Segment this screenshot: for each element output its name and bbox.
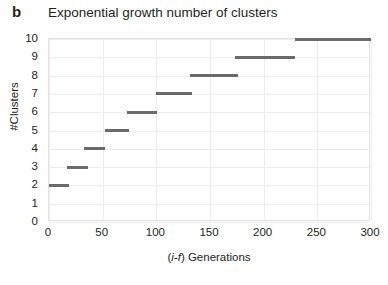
figure-panel-b: b Exponential growth number of clusters …	[0, 0, 388, 285]
step-segment	[105, 129, 130, 132]
y-axis-tick-labels: 012345678910	[0, 38, 44, 221]
step-segment	[190, 74, 238, 77]
x-tick-label: 50	[95, 225, 108, 239]
gridline-horizontal	[49, 222, 369, 223]
step-segment	[295, 38, 371, 41]
x-axis-tick-labels: 050100150200250300	[48, 225, 370, 241]
y-tick-label: 2	[32, 178, 38, 190]
y-tick-label: 3	[32, 160, 38, 172]
y-tick-label: 9	[32, 50, 38, 62]
x-axis-title: (i-f) Generations	[48, 250, 370, 264]
step-series	[49, 39, 369, 220]
x-tick-label: 300	[360, 225, 379, 239]
y-tick-label: 6	[32, 105, 38, 117]
x-tick-label: 250	[307, 225, 326, 239]
step-segment	[127, 111, 157, 114]
step-segment	[156, 92, 191, 95]
plot-area	[48, 38, 370, 221]
step-segment	[84, 147, 104, 150]
x-axis-title-italic: i-f	[171, 251, 181, 263]
gridline-vertical	[371, 39, 372, 220]
chart-title: Exponential growth number of clusters	[48, 3, 378, 22]
y-tick-label: 4	[32, 142, 38, 154]
y-tick-label: 1	[32, 197, 38, 209]
y-tick-label: 5	[32, 124, 38, 136]
panel-label: b	[12, 3, 21, 21]
step-segment	[67, 166, 87, 169]
y-tick-label: 10	[25, 32, 38, 44]
y-tick-label: 0	[32, 215, 38, 227]
x-tick-label: 200	[253, 225, 272, 239]
x-tick-label: 100	[146, 225, 165, 239]
y-tick-label: 8	[32, 69, 38, 81]
x-axis-title-plain: ) Generations	[181, 251, 251, 263]
x-tick-label: 0	[45, 225, 51, 239]
x-tick-label: 150	[199, 225, 218, 239]
y-tick-label: 7	[32, 87, 38, 99]
step-segment	[235, 56, 295, 59]
step-segment	[49, 184, 69, 187]
